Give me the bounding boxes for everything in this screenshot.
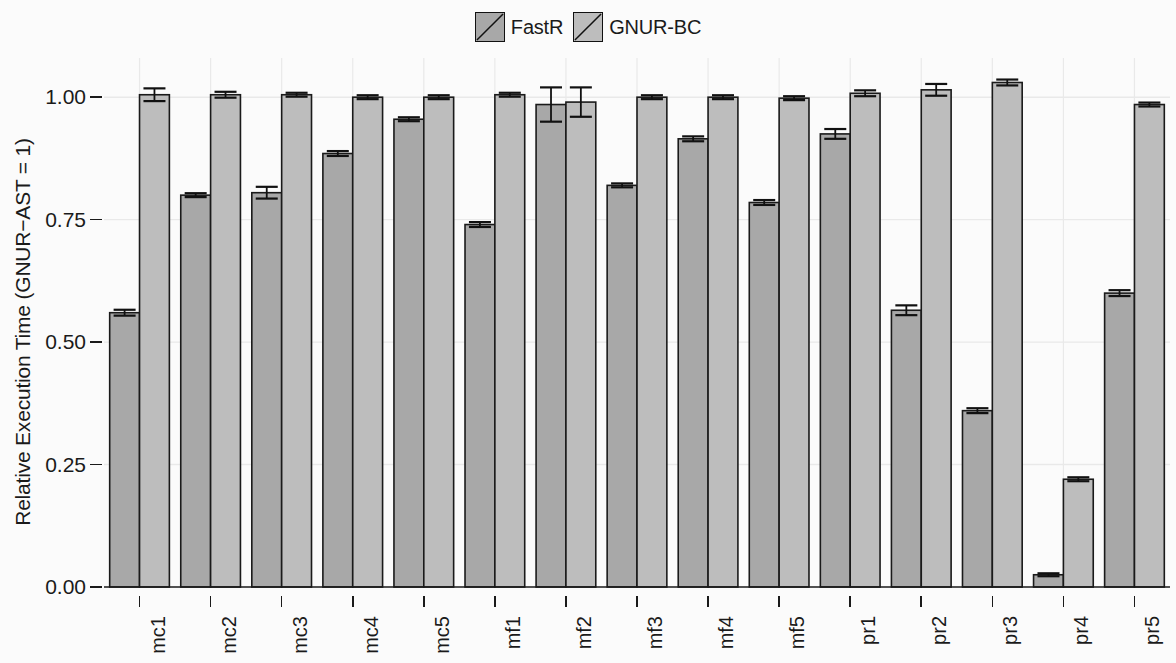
x-tick-label-text: mf2 [573,616,596,649]
bar-mf4-fastr [678,139,708,587]
y-axis-tick-labels: 0.000.250.500.751.00 [20,0,86,663]
bar-mc3-fastr [252,193,282,587]
x-tick-label-text: mc5 [431,616,454,654]
x-tick-mark [210,596,212,607]
x-tick-label-text: pr4 [1070,616,1093,645]
bar-mf1-gnur-bc [495,95,525,587]
chart-legend: FastR GNUR-BC [0,6,1176,48]
bar-pr2-fastr [891,310,921,587]
plot-area [104,58,1170,588]
y-tick-label-0.25: 0.25 [22,454,86,475]
legend-label-fastr: FastR [511,17,563,37]
bar-pr1-gnur-bc [850,93,880,587]
y-tick-label-0.50: 0.50 [22,331,86,352]
x-tick-label-text: mc3 [289,616,312,654]
y-tick-mark [90,96,102,98]
legend-swatch-fastr [475,12,505,42]
bar-mf3-gnur-bc [637,97,667,587]
y-tick-mark [90,341,102,343]
legend-entry-gnur-bc: GNUR-BC [573,12,701,42]
bar-pr2-gnur-bc [921,90,951,587]
x-tick-label-text: pr2 [928,616,951,645]
x-tick-label-text: pr3 [999,616,1022,645]
x-tick-mark [778,596,780,607]
x-axis-tick-labels: mc1mc2mc3mc4mc5mf1mf2mf3mf4mf5pr1pr2pr3p… [104,596,1170,663]
x-tick-mark [352,596,354,607]
x-tick-mark [281,596,283,607]
bar-pr5-fastr [1105,293,1135,587]
x-tick-mark [1134,596,1136,607]
x-tick-mark [423,596,425,607]
bar-mc3-gnur-bc [282,95,312,587]
bar-chart-canvas [104,58,1170,588]
x-tick-mark [636,596,638,607]
bar-mf1-fastr [465,225,495,587]
x-tick-label-text: mf3 [644,616,667,649]
x-tick-mark [1063,596,1065,607]
x-tick-mark [920,596,922,607]
x-tick-label-text: mf5 [786,616,809,649]
x-tick-label-text: mc4 [360,616,383,654]
bar-pr3-gnur-bc [992,82,1022,587]
x-tick-mark [992,596,994,607]
bar-pr1-fastr [820,134,850,587]
chart-figure: FastR GNUR-BC Relative Execution Time (G… [0,0,1176,663]
bar-mc5-gnur-bc [424,97,454,587]
hatched-square-icon [574,13,602,41]
bar-mf4-gnur-bc [708,97,738,587]
bar-mc4-gnur-bc [353,97,383,587]
x-tick-label-text: mc2 [218,616,241,654]
x-tick-mark [494,596,496,607]
bar-mf2-gnur-bc [566,102,596,587]
x-tick-mark [565,596,567,607]
bar-pr4-gnur-bc [1063,479,1093,587]
bar-pr5-gnur-bc [1134,105,1164,587]
y-tick-label-0.75: 0.75 [22,209,86,230]
x-tick-label-text: mc1 [147,616,170,654]
x-tick-label-text: mf1 [502,616,525,649]
bar-pr3-fastr [962,411,992,587]
y-tick-mark [90,219,102,221]
bar-mc4-fastr [323,154,353,587]
bar-mf2-fastr [536,105,566,587]
bar-mc2-gnur-bc [211,95,241,587]
bar-mc1-fastr [110,313,140,587]
x-tick-label-text: mf4 [715,616,738,649]
bar-mc1-gnur-bc [140,95,170,587]
bar-mf5-fastr [749,202,779,587]
bar-mf5-gnur-bc [779,98,809,587]
y-tick-label-0.00: 0.00 [22,576,86,597]
x-tick-mark [139,596,141,607]
y-tick-mark [90,586,102,588]
x-tick-mark [849,596,851,607]
y-tick-mark [90,464,102,466]
bar-mc5-fastr [394,119,424,587]
legend-swatch-gnur-bc [573,12,603,42]
legend-entry-fastr: FastR [475,12,563,42]
legend-label-gnur-bc: GNUR-BC [609,17,701,37]
hatched-square-icon [476,13,504,41]
bar-mc2-fastr [181,195,211,587]
x-tick-mark [707,596,709,607]
x-tick-label-text: pr1 [857,616,880,645]
bar-mf3-fastr [607,185,637,587]
x-tick-label-text: pr5 [1141,616,1164,645]
y-tick-label-1.00: 1.00 [22,86,86,107]
